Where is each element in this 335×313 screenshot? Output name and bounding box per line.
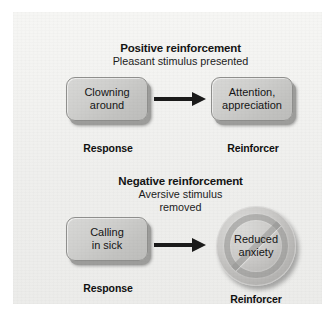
positive-title: Positive reinforcement [26,42,335,55]
diagram-panel: Positive reinforcement Pleasant stimulus… [13,12,322,304]
positive-response-box: Clowning around [66,77,148,121]
negative-arrow-head [192,238,206,252]
negative-title: Negative reinforcement [26,175,335,188]
positive-section-heading: Positive reinforcement Pleasant stimulus… [26,42,335,68]
negative-response-box: Calling in sick [66,217,148,261]
negative-response-caption: Response [66,282,150,294]
negative-reinforcer-circle: Reduced anxiety [216,206,296,286]
positive-reinforcer-text: Attention, appreciation [222,86,282,113]
positive-reinforcer-caption: Reinforcer [211,142,295,154]
negative-response-text: Calling in sick [90,226,124,253]
positive-reinforcer-box: Attention, appreciation [211,77,293,121]
negative-reinforcer-caption: Reinforcer [214,293,298,305]
negative-subtitle: Aversive stimulus removed [26,188,335,213]
positive-response-caption: Response [66,142,150,154]
positive-arrow-shaft [154,97,192,101]
negative-arrow-icon [154,238,206,252]
negative-arrow-shaft [154,243,192,247]
positive-arrow-head [192,92,206,106]
positive-arrow-icon [154,92,206,106]
negative-reinforcer-text: Reduced anxiety [234,233,278,260]
positive-response-text: Clowning around [84,86,129,113]
negative-section-heading: Negative reinforcement Aversive stimulus… [26,175,335,213]
reinforcement-diagram: Positive reinforcement Pleasant stimulus… [0,0,335,313]
positive-subtitle: Pleasant stimulus presented [26,55,335,68]
